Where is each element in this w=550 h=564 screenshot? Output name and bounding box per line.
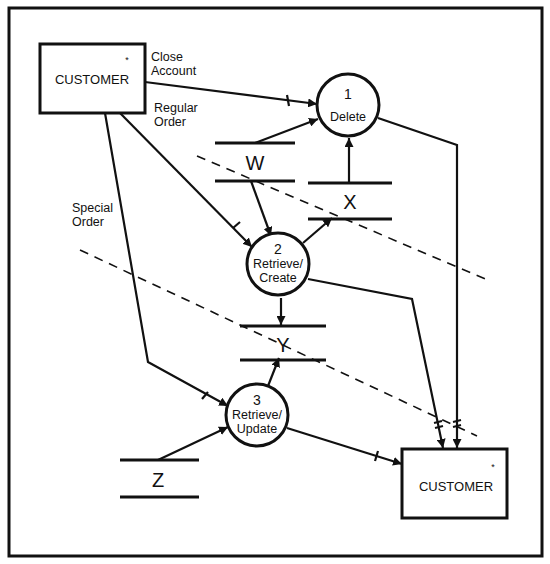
flow-retrieve-create-to-customer bbox=[308, 279, 443, 448]
process-1-delete[interactable]: 1 Delete bbox=[317, 74, 379, 136]
flow-label-regular-order-line1: Regular bbox=[154, 101, 198, 115]
entity-marker: * bbox=[491, 462, 495, 472]
entity-customer-sink-label: CUSTOMER bbox=[419, 479, 493, 494]
flow-label-special-order-line1: Special bbox=[72, 201, 113, 215]
process-2-name-line2: Create bbox=[259, 271, 297, 285]
process-2-name-line1: Retrieve/ bbox=[253, 257, 304, 271]
flow-retrieve-update-to-y bbox=[268, 358, 279, 386]
entity-marker: * bbox=[125, 55, 129, 65]
process-2-number: 2 bbox=[274, 241, 282, 257]
flow-retrieve-create-to-x bbox=[303, 218, 332, 243]
process-3-name-line2: Update bbox=[237, 422, 277, 436]
store-x-label: X bbox=[343, 191, 356, 213]
process-1-number: 1 bbox=[344, 86, 352, 102]
store-y-label: Y bbox=[276, 334, 289, 356]
flow-delete-to-customer bbox=[378, 118, 457, 448]
store-w-label: W bbox=[246, 152, 265, 174]
flow-w-to-delete bbox=[255, 119, 318, 143]
flow-w-to-retrieve-create bbox=[251, 181, 271, 236]
flow-retrieve-update-to-customer bbox=[287, 428, 402, 464]
entity-customer-source[interactable]: * CUSTOMER bbox=[40, 44, 145, 113]
flow-label-special-order-line2: Order bbox=[72, 215, 104, 229]
flow-z-to-retrieve-update bbox=[158, 427, 228, 460]
store-z-label: Z bbox=[152, 469, 164, 491]
process-3-number: 3 bbox=[253, 392, 261, 408]
data-flow-diagram: W X Y Z 1 Delete 2 Retrieve/ Create 3 Re… bbox=[0, 0, 550, 564]
process-3-retrieve-update[interactable]: 3 Retrieve/ Update bbox=[226, 384, 288, 446]
process-1-name: Delete bbox=[330, 110, 366, 124]
flow-special-order bbox=[105, 113, 228, 406]
flow-label-close-account-line1: Close bbox=[151, 50, 183, 64]
process-3-name-line1: Retrieve/ bbox=[232, 408, 283, 422]
entity-customer-source-label: CUSTOMER bbox=[55, 72, 129, 87]
process-2-retrieve-create[interactable]: 2 Retrieve/ Create bbox=[247, 233, 309, 295]
flow-label-close-account-line2: Account bbox=[151, 64, 197, 78]
flow-label-regular-order-line2: Order bbox=[154, 115, 186, 129]
entity-customer-sink[interactable]: * CUSTOMER bbox=[402, 449, 507, 518]
